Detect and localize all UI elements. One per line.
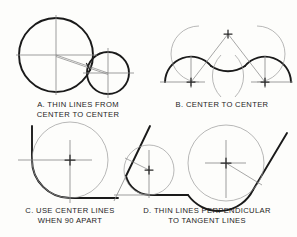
panel-a-center-to-center-line [56, 55, 108, 75]
panel-b-group: B. CENTER TO CENTER [160, 26, 293, 109]
panel-d-left-line-extension [114, 176, 126, 201]
panel-b-center-construction-arc-right [235, 55, 244, 97]
panel-a-group: A. THIN LINES FROM CENTER TO CENTER [16, 15, 134, 119]
panel-b-right-construction-arc [257, 26, 285, 82]
panel-d-caption-line1: D. THIN LINES PERPENDICULAR [143, 206, 271, 215]
technical-drawing-figure: A. THIN LINES FROM CENTER TO CENTER [0, 0, 297, 237]
drawing-plate: A. THIN LINES FROM CENTER TO CENTER [0, 0, 297, 237]
panel-c-caption-line1: C. USE CENTER LINES [25, 206, 114, 215]
panel-d-small-center-mark [145, 166, 153, 174]
panel-d-caption-line2: TO TANGENT LINES [168, 216, 246, 225]
panel-b-apex-mark [224, 30, 232, 38]
panel-c-quarter-arc [32, 160, 70, 198]
panel-d-group: D. THIN LINES PERPENDICULAR TO TANGENT L… [114, 125, 287, 225]
panel-b-left-center-mark [187, 78, 195, 86]
panel-b-center-construction-arc-left [212, 55, 221, 97]
panel-d-large-center-mark [221, 158, 231, 168]
panel-b-reverse-arc [211, 66, 245, 71]
panel-a-caption-line2: CENTER TO CENTER [37, 110, 120, 119]
panel-d-small-perpendicular-line [125, 158, 149, 170]
panel-c-group: C. USE CENTER LINES WHEN 90 APART [18, 122, 118, 225]
panel-b-right-center-mark [261, 78, 269, 86]
panel-a-caption-line1: A. THIN LINES FROM [37, 100, 119, 109]
panel-d-right-inclined-line [253, 133, 287, 190]
panel-b-center-to-center-lines [191, 34, 265, 82]
panel-d-large-perpendicular-line [226, 163, 262, 185]
panel-c-center-mark [65, 155, 75, 165]
panel-c-caption-line2: WHEN 90 APART [38, 216, 103, 225]
panel-b-caption-line1: B. CENTER TO CENTER [176, 100, 269, 109]
panel-b-left-construction-arc [171, 26, 199, 82]
panel-a-small-center-mark [83, 48, 134, 98]
